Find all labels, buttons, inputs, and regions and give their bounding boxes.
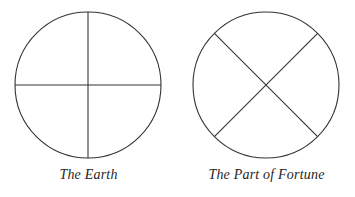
figure-sheet: The Earth The Part of Fortune — [0, 0, 355, 197]
earth-cross-circle-icon — [0, 8, 177, 164]
figure-earth: The Earth — [0, 0, 177, 197]
part-of-fortune-caption: The Part of Fortune — [178, 166, 355, 184]
part-of-fortune-glyph-svg — [178, 8, 355, 164]
earth-glyph-svg — [0, 8, 177, 164]
part-of-fortune-x-circle-icon — [178, 8, 355, 164]
figure-part-of-fortune: The Part of Fortune — [178, 0, 355, 197]
earth-caption: The Earth — [0, 166, 177, 184]
